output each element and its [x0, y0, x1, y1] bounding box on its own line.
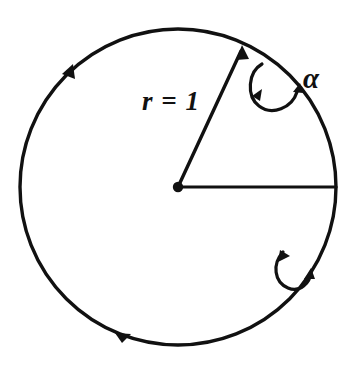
diagonal-radius-arrowhead [236, 45, 249, 60]
angle-label: α [303, 64, 319, 93]
angle-arc-alpha [250, 64, 297, 110]
figure-canvas: r = 1 α [0, 0, 349, 365]
center-point [173, 182, 183, 192]
circle-diagram-svg [0, 0, 349, 365]
diagonal-radius [178, 51, 241, 187]
radius-label: r = 1 [142, 88, 200, 115]
